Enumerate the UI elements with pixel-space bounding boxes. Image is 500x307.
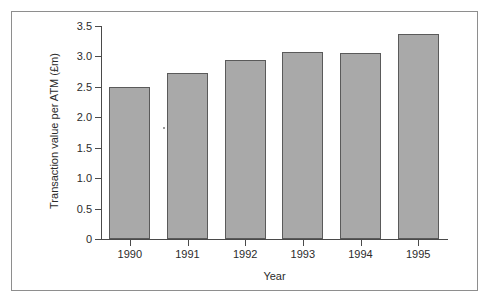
- y-axis-tick-label: 0: [32, 234, 92, 245]
- y-axis-tick-label: 1.5: [32, 142, 92, 153]
- x-axis-tick: [418, 240, 419, 246]
- y-axis-tick-label: 1.0: [32, 173, 92, 184]
- scan-speck: [163, 127, 165, 129]
- x-axis-tick-label: 1992: [215, 249, 275, 260]
- x-axis-tick: [361, 240, 362, 246]
- x-axis-tick-label: 1995: [388, 249, 448, 260]
- plot-area: [101, 26, 447, 239]
- bar-1990: [109, 87, 150, 239]
- x-axis-tick-label: 1991: [158, 249, 218, 260]
- x-axis-tick: [130, 240, 131, 246]
- y-axis-tick: [95, 239, 101, 240]
- bar-1994: [340, 53, 381, 239]
- y-axis-tick-labels: 00.51.01.52.02.53.03.5: [28, 0, 92, 307]
- y-axis-tick-label: 0.5: [32, 203, 92, 214]
- x-axis-tick-label: 1994: [331, 249, 391, 260]
- y-axis-title: Transaction value per ATM (£m): [48, 31, 60, 231]
- x-axis-tick: [303, 240, 304, 246]
- x-axis-tick: [188, 240, 189, 246]
- y-axis-tick-label: 3.0: [32, 51, 92, 62]
- y-axis-tick-label: 2.0: [32, 112, 92, 123]
- bar-1993: [282, 52, 323, 239]
- figure: 00.51.01.52.02.53.03.5 19901991199219931…: [0, 0, 500, 307]
- bar-1992: [225, 60, 266, 239]
- x-axis-line: [101, 239, 448, 240]
- x-axis-title: Year: [101, 270, 448, 282]
- bar-1995: [398, 34, 439, 239]
- y-axis-tick-label: 2.5: [32, 81, 92, 92]
- x-axis-tick-label: 1990: [100, 249, 160, 260]
- x-axis-tick: [245, 240, 246, 246]
- y-axis-tick-label: 3.5: [32, 21, 92, 32]
- x-axis-tick-label: 1993: [273, 249, 333, 260]
- bar-1991: [167, 73, 208, 239]
